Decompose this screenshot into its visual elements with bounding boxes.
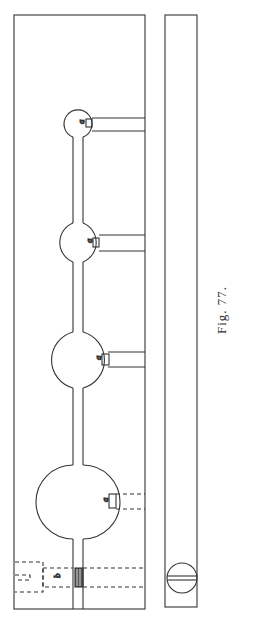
figure-caption: Fig. 77. bbox=[214, 286, 230, 334]
bulb-2-duct bbox=[93, 235, 145, 251]
channel-with-bulbs bbox=[36, 110, 120, 609]
main-block-outline bbox=[14, 15, 145, 609]
label-a-3: a bbox=[93, 355, 103, 360]
bulb-3-duct bbox=[102, 352, 145, 367]
bulb-1-duct bbox=[86, 118, 145, 131]
label-a-2: a bbox=[84, 238, 94, 243]
piston-plug bbox=[75, 568, 83, 587]
label-b: b bbox=[52, 573, 62, 578]
label-a-1: a bbox=[76, 119, 86, 124]
screw-head-icon bbox=[167, 563, 197, 593]
side-bar-outline bbox=[165, 15, 197, 607]
bulb-4-duct bbox=[109, 494, 145, 509]
label-a-4: a bbox=[100, 497, 110, 502]
